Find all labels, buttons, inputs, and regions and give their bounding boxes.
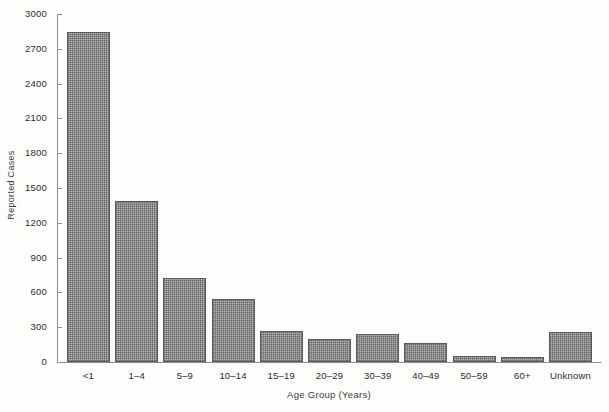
- y-axis-tick: [57, 49, 62, 50]
- y-axis-tick-label: 300: [0, 321, 52, 332]
- bar-15-19: [260, 331, 303, 362]
- y-axis-tick: [57, 118, 62, 119]
- y-axis-tick-label: 2100: [0, 112, 52, 123]
- y-axis-tick: [57, 223, 62, 224]
- bar-20-29: [308, 339, 351, 362]
- bar-chart-figure: Reported Cases 0300600900120015001800210…: [0, 0, 609, 412]
- y-axis-tick-label: 1200: [0, 217, 52, 228]
- y-axis-tick: [57, 292, 62, 293]
- bar-5-9: [163, 278, 206, 362]
- y-axis-tick-label: 2700: [0, 43, 52, 54]
- bar-1-4: [115, 201, 158, 362]
- x-axis-title: Age Group (Years): [57, 389, 601, 400]
- y-axis-tick-label: 2400: [0, 78, 52, 89]
- y-axis-tick: [57, 362, 62, 363]
- y-axis-tick-label: 900: [0, 252, 52, 263]
- y-axis-tick: [57, 327, 62, 328]
- x-axis-line: [57, 362, 601, 363]
- y-axis-tick-label: 600: [0, 286, 52, 297]
- y-axis-tick: [57, 14, 62, 15]
- bar-60-: [501, 357, 544, 362]
- y-axis-tick: [57, 188, 62, 189]
- y-axis-tick-label: 0: [0, 356, 52, 367]
- bar-10-14: [212, 299, 255, 362]
- y-axis-tick-label: 1800: [0, 147, 52, 158]
- bar-40-49: [404, 343, 447, 362]
- y-axis-tick: [57, 258, 62, 259]
- bar--1: [67, 32, 110, 362]
- y-axis-tick-label: 3000: [0, 8, 52, 19]
- bar-30-39: [356, 334, 399, 362]
- bar-unknown: [549, 332, 592, 362]
- y-axis-tick: [57, 153, 62, 154]
- y-axis-tick: [57, 84, 62, 85]
- x-axis-tick-label: Unknown: [535, 370, 606, 381]
- y-axis-tick-label: 1500: [0, 182, 52, 193]
- bar-50-59: [453, 356, 496, 362]
